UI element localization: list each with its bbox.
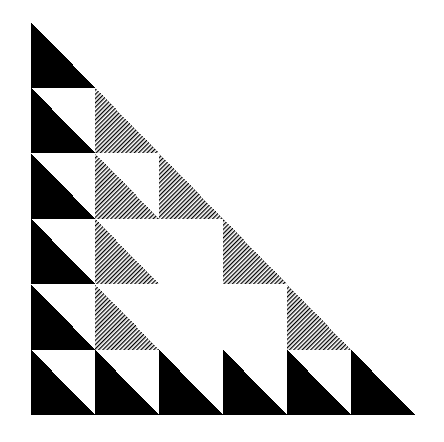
triangle-hatch-r4c4 (287, 284, 351, 350)
triangle-solid-r5c0 (31, 350, 95, 416)
triangle-solid-r5c1 (95, 350, 159, 416)
artboard (0, 0, 444, 442)
triangle-solid-r2c0 (31, 153, 95, 219)
triangle-hatch-r2c2 (159, 153, 223, 219)
triangle-hatch-r2c1 (95, 153, 159, 219)
triangle-solid-r5c4 (287, 350, 351, 416)
triangle-hatch-r3c1 (95, 219, 159, 285)
triangle-solid-r5c5 (351, 350, 415, 416)
triangle-hatch-r3c3 (223, 219, 287, 285)
triangle-solid-r4c0 (31, 284, 95, 350)
triangle-hatch-r4c1 (95, 284, 159, 350)
triangle-cells-group (31, 22, 415, 415)
triangle-solid-r5c3 (223, 350, 287, 416)
triangle-tiling-svg (31, 22, 415, 415)
triangle-solid-r1c0 (31, 88, 95, 154)
triangle-tiling-figure (31, 22, 415, 415)
triangle-solid-r0c0 (31, 22, 95, 88)
triangle-solid-r3c0 (31, 219, 95, 285)
triangle-solid-r5c2 (159, 350, 223, 416)
triangle-hatch-r1c1 (95, 88, 159, 154)
